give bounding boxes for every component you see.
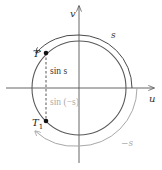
point-T1-subscript: 1: [39, 123, 43, 131]
point-T1: [44, 119, 49, 124]
unit-circle-figure: v u T T1 sin s sin (−s) s −s: [0, 0, 162, 170]
sin-s-label: sin s: [50, 66, 67, 76]
point-T: [44, 51, 49, 56]
v-axis-label: v: [70, 8, 76, 19]
point-T1-label: T1: [32, 117, 43, 131]
arc-neg-s-label: −s: [121, 138, 134, 148]
u-axis-label: u: [149, 93, 155, 104]
sin-neg-s-label: sin (−s): [50, 97, 79, 108]
arc-s-label: s: [111, 30, 116, 40]
